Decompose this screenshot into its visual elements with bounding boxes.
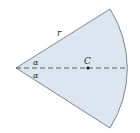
- radius-label: r: [57, 28, 62, 38]
- centroid-label: C: [84, 56, 91, 66]
- centroid-point: [86, 66, 89, 69]
- sector-diagram: r α α C: [0, 0, 140, 133]
- sector-shape: [16, 9, 127, 128]
- angle-top-label: α: [33, 58, 39, 67]
- angle-bottom-label: α: [33, 71, 39, 80]
